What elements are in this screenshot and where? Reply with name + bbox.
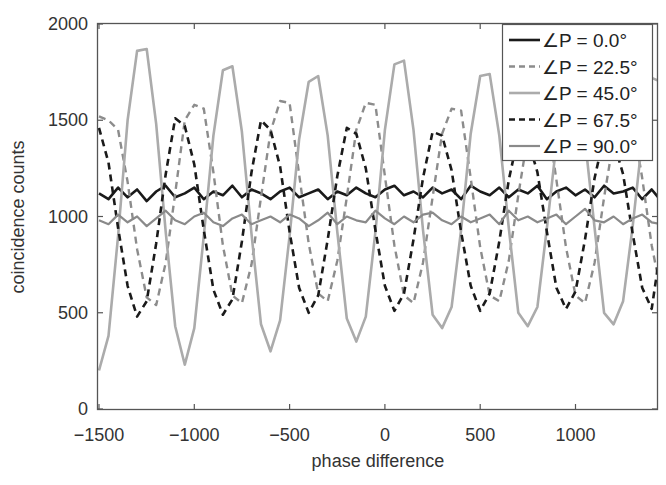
x-tick-label: 500 xyxy=(465,425,495,445)
y-tick-label: 0 xyxy=(78,399,88,419)
y-axis-label: coincidence counts xyxy=(8,140,28,293)
y-tick-label: 2000 xyxy=(48,14,88,34)
y-tick-label: 1000 xyxy=(48,207,88,227)
legend-label: ∠P = 0.0° xyxy=(542,30,627,51)
y-tick-label: 1500 xyxy=(48,110,88,130)
legend-label: ∠P = 67.5° xyxy=(542,110,638,131)
y-tick-label: 500 xyxy=(58,303,88,323)
x-tick-label: 0 xyxy=(380,425,390,445)
x-tick-label: −1500 xyxy=(74,425,125,445)
x-tick-label: 1000 xyxy=(555,425,595,445)
line-chart: −1500−1000−50005001000 0500100015002000 … xyxy=(0,0,666,485)
x-tick-label: −500 xyxy=(269,425,310,445)
legend: ∠P = 0.0°∠P = 22.5°∠P = 45.0°∠P = 67.5°∠… xyxy=(503,25,653,161)
legend-label: ∠P = 45.0° xyxy=(542,83,638,104)
legend-label: ∠P = 90.0° xyxy=(542,136,638,157)
x-tick-label: −1000 xyxy=(169,425,220,445)
x-axis-label: phase difference xyxy=(312,451,445,471)
legend-label: ∠P = 22.5° xyxy=(542,57,638,78)
